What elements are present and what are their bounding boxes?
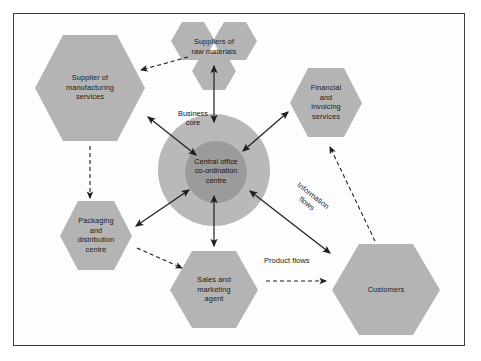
diagram-canvas bbox=[0, 0, 481, 361]
node-sales-marketing[interactable] bbox=[170, 251, 258, 328]
central-office-inner-circle bbox=[185, 141, 247, 203]
flow-customers-to-financial-invoicing bbox=[330, 147, 375, 241]
node-supplier-manufacturing[interactable] bbox=[35, 35, 145, 141]
node-financial-invoicing[interactable] bbox=[290, 68, 362, 137]
flow-packaging-to-sales-marketing bbox=[137, 248, 182, 268]
node-packaging-distribution[interactable] bbox=[60, 201, 132, 270]
node-customers[interactable] bbox=[332, 244, 440, 335]
flow-raw-materials-to-supplier-manufacturing bbox=[141, 57, 188, 70]
diagram-page: Business core Central office co-ordinati… bbox=[0, 0, 481, 361]
flow-core-to-customers-information bbox=[250, 191, 330, 253]
